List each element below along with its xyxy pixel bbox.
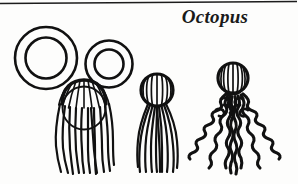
tentacles-step-2 bbox=[137, 104, 178, 172]
ring-large bbox=[15, 27, 77, 89]
head-striations-step-2 bbox=[143, 75, 171, 106]
head-striations-step-1 bbox=[59, 80, 109, 108]
head-striations-step-3 bbox=[221, 64, 245, 94]
tentacles-step-1 bbox=[56, 104, 114, 174]
horizontal-rule bbox=[0, 2, 297, 4]
illustration-canvas bbox=[0, 0, 298, 184]
octopus-step-2 bbox=[137, 74, 178, 172]
octopus-step-1 bbox=[56, 80, 114, 174]
octopus-step-3 bbox=[189, 63, 280, 174]
octopus-craft-illustration: Octopus bbox=[0, 0, 298, 184]
